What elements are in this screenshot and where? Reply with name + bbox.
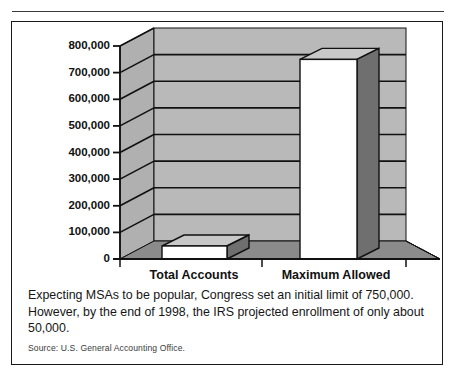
category-label-total-accounts: Total Accounts <box>150 268 239 282</box>
figure-source: Source: U.S. General Accounting Office. <box>28 342 428 354</box>
y-axis-tick-labels: 800,000 700,000 600,000 500,000 400,000 … <box>68 39 110 264</box>
ytick-label-600000: 600,000 <box>68 92 110 104</box>
category-label-maximum-allowed: Maximum Allowed <box>282 268 391 282</box>
ytick-label-700000: 700,000 <box>68 66 110 78</box>
chart-svg: 800,000 700,000 600,000 500,000 400,000 … <box>12 22 444 284</box>
bar-chart: 800,000 700,000 600,000 500,000 400,000 … <box>12 22 444 284</box>
figure-border-box: 800,000 700,000 600,000 500,000 400,000 … <box>11 21 443 365</box>
bar-maximum-allowed-side <box>357 48 379 259</box>
bar-total-accounts-front <box>162 246 227 259</box>
x-axis-ticks <box>120 259 406 267</box>
figure-page: 800,000 700,000 600,000 500,000 400,000 … <box>0 0 456 374</box>
figure-caption: Expecting MSAs to be popular, Congress s… <box>28 287 428 337</box>
ytick-label-400000: 400,000 <box>68 146 110 158</box>
chart-plot-walls <box>120 28 440 259</box>
bar-maximum-allowed[interactable] <box>300 48 379 259</box>
ytick-label-800000: 800,000 <box>68 39 110 51</box>
y-axis-ticks <box>113 46 120 259</box>
ytick-label-300000: 300,000 <box>68 172 110 184</box>
bar-maximum-allowed-front <box>300 59 357 259</box>
ytick-label-500000: 500,000 <box>68 119 110 131</box>
page-top-rule <box>12 11 444 12</box>
ytick-label-0: 0 <box>104 252 110 264</box>
ytick-label-100000: 100,000 <box>68 225 110 237</box>
ytick-label-200000: 200,000 <box>68 199 110 211</box>
